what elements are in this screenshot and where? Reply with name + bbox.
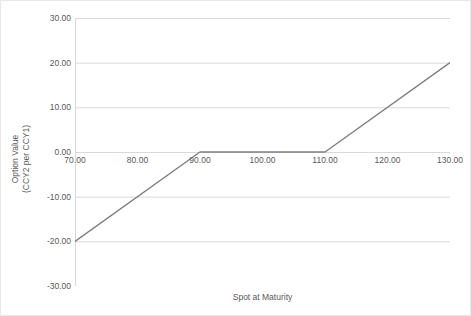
y-axis-title-line-1: Option Value [10, 125, 21, 193]
y-axis-tick-label: 20.00 [23, 58, 71, 67]
y-axis-tick-label: 0.00 [23, 148, 71, 157]
y-axis-title: Option Value (CCY2 per CCY1) [1, 1, 41, 316]
plot-area [75, 18, 450, 286]
y-axis-title-line-2: (CCY2 per CCY1) [21, 125, 32, 193]
y-axis-tick-label: 30.00 [23, 14, 71, 23]
y-axis-tick-label: 10.00 [23, 103, 71, 112]
x-axis-title: Spot at Maturity [75, 292, 450, 303]
axis-lines [75, 18, 76, 286]
y-axis-tick-labels: 30.0020.0010.000.00-10.00-20.00-30.00 [23, 1, 71, 316]
plot-svg [75, 18, 450, 286]
y-axis-tick-label: -20.00 [23, 237, 71, 246]
y-axis-tick-label: -30.00 [23, 282, 71, 291]
chart-container: Option Value (CCY2 per CCY1) 30.0020.001… [0, 0, 471, 316]
y-axis-tick-label: -10.00 [23, 192, 71, 201]
